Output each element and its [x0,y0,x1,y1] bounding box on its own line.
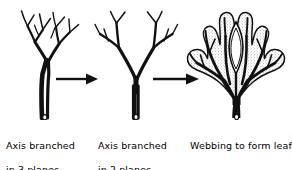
caption-line: in 3 planes [6,164,98,170]
diagram-stage-webbed-leaf [182,0,290,120]
axis-3-planes-illustration [4,0,90,120]
caption-axis-3-planes: Axis branched in 3 planes [6,128,98,170]
leaf-evolution-figure: Axis branched in 3 planes Axis branched … [0,0,292,170]
stem-base-circle-icon [134,114,138,119]
webbed-leaf-illustration [182,0,290,120]
diagram-stage-axis-2-planes [92,0,180,120]
axis-2-planes-illustration [92,0,180,120]
diagram-stage-axis-3-planes [4,0,90,120]
caption-line: Axis branched [6,140,98,152]
caption-line: Webbing to form leaf [190,140,292,152]
caption-webbing-to-form-leaf: Webbing to form leaf [190,128,292,164]
stem-base-circle-icon [235,114,239,119]
caption-line: Axis branched [98,140,190,152]
caption-axis-2-planes: Axis branched in 2 planes (flattened) [98,128,190,170]
caption-line: in 2 planes [98,164,190,170]
stem-base-circle-icon [43,115,47,120]
